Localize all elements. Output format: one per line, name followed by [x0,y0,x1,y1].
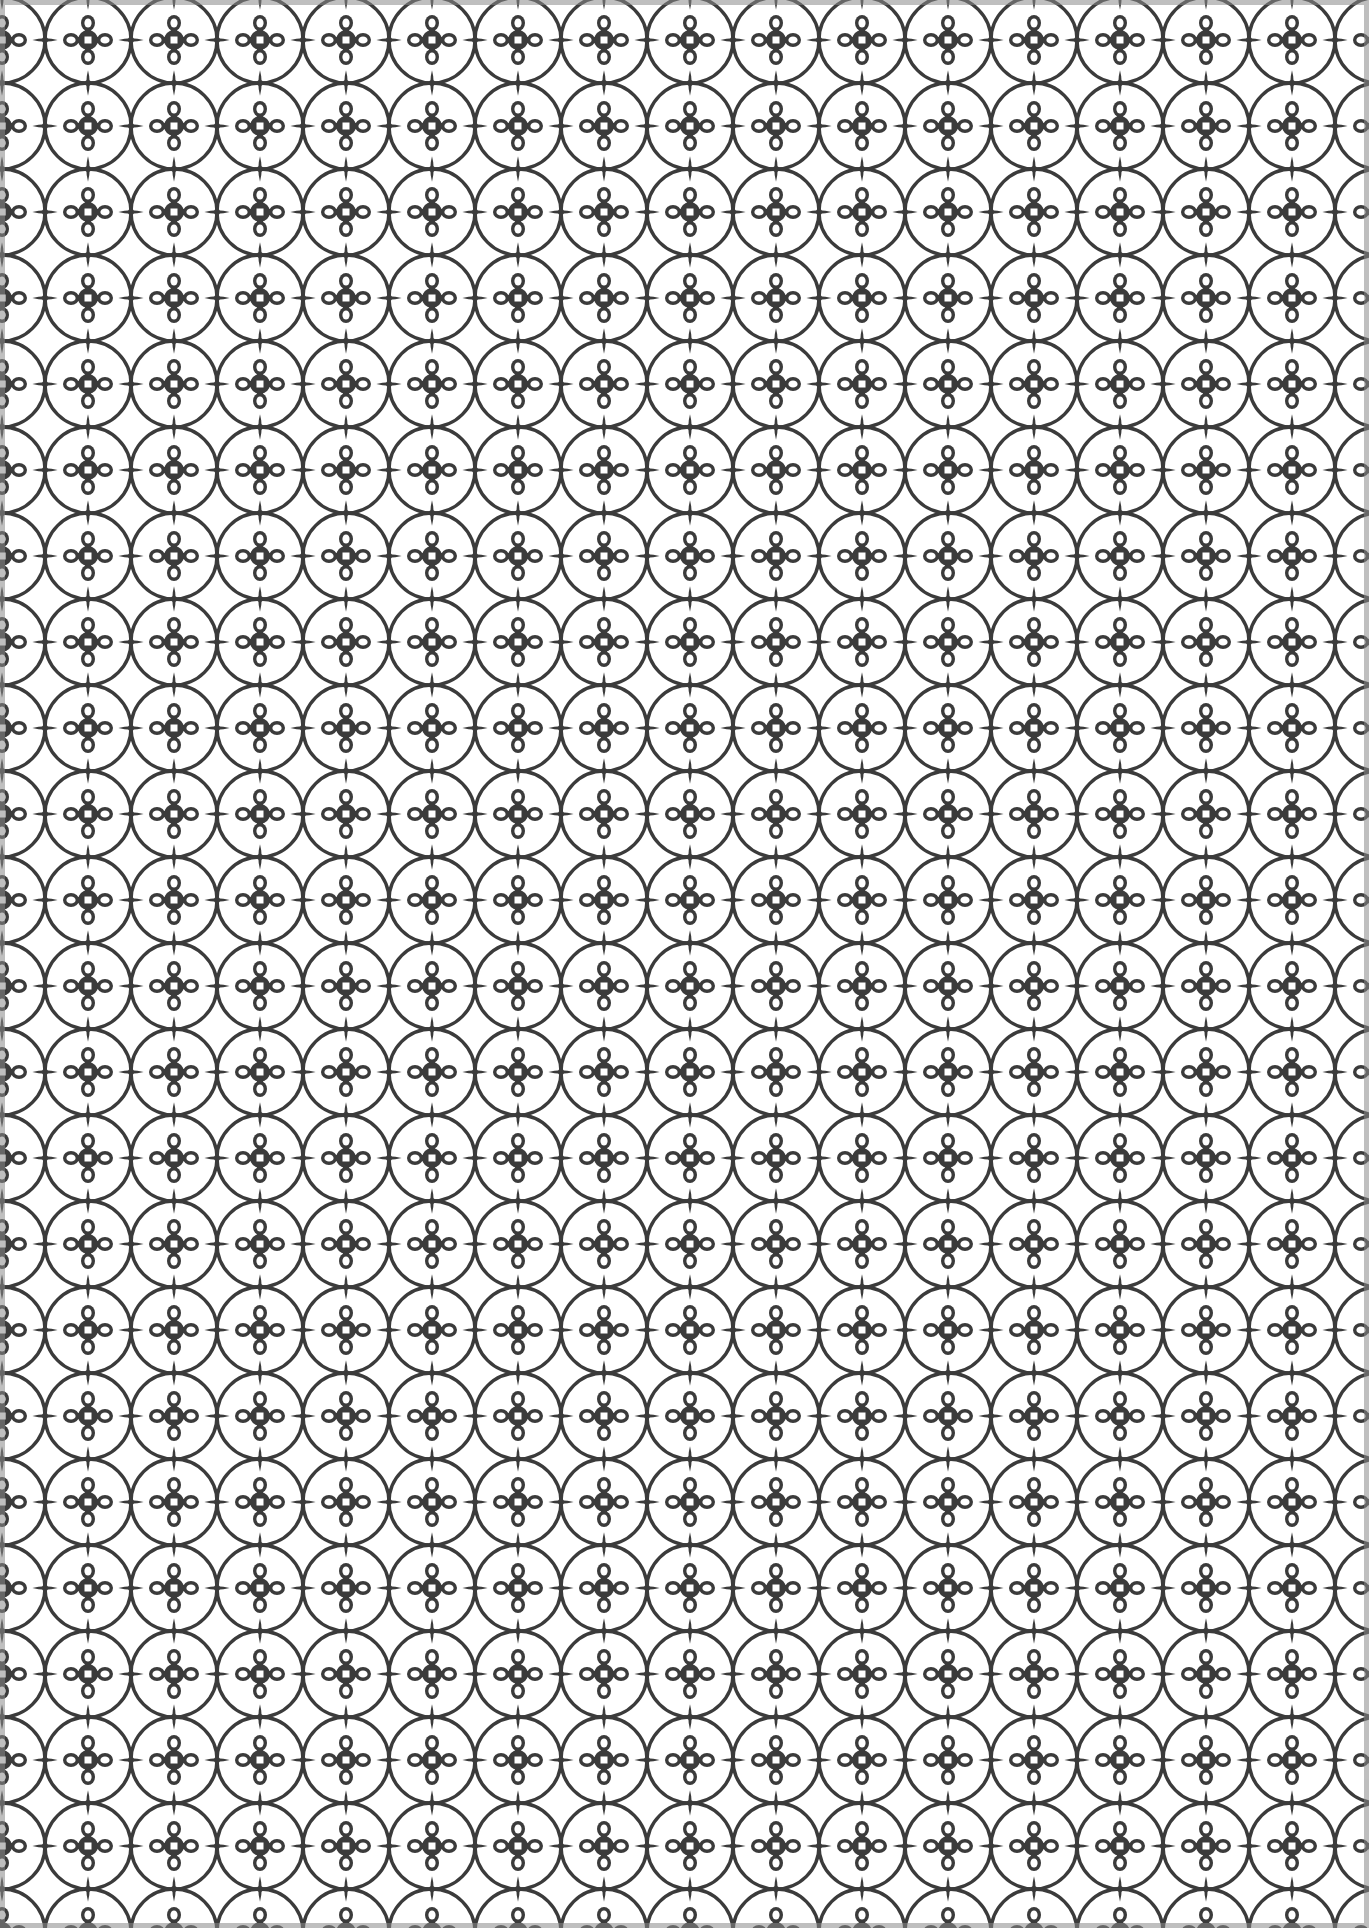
pattern-fill [0,0,1369,1928]
lattice-pattern [0,0,1369,1928]
pattern-sheet [0,0,1369,1928]
